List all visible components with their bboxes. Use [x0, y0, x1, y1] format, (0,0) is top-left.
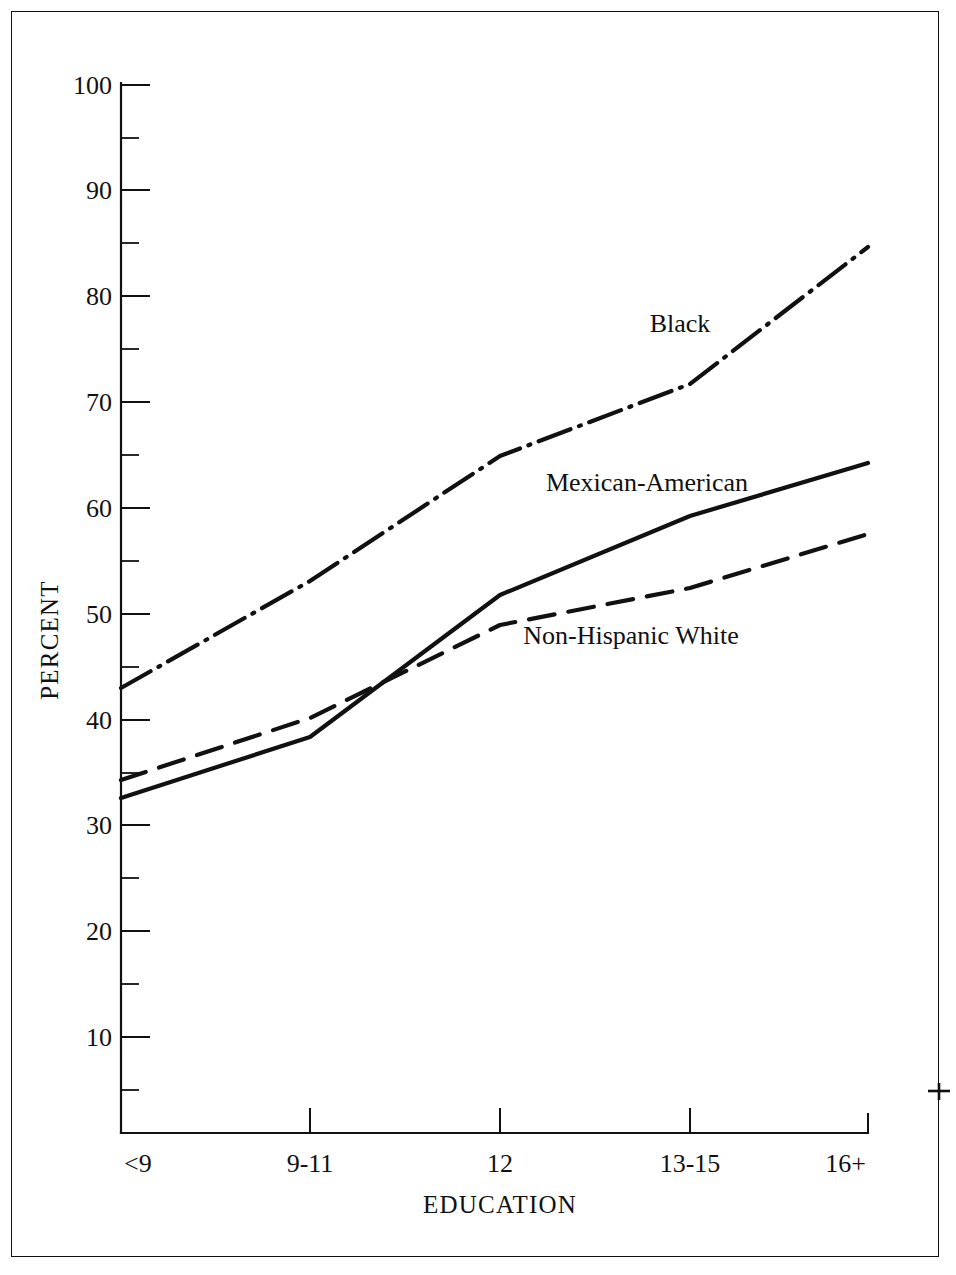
- y-tick-label-20: 20: [86, 917, 112, 946]
- y-tick-label-50: 50: [86, 600, 112, 629]
- chart-figure: 100 90 80 70 60 50 40 30 20 10 PERCENT <…: [0, 0, 956, 1275]
- series-line-non-hispanic-white: [121, 534, 868, 780]
- x-tick-marks: [310, 1108, 690, 1133]
- x-axis: [121, 1113, 868, 1133]
- y-tick-marks: [121, 85, 150, 1090]
- x-tick-label-12: 12: [487, 1149, 513, 1178]
- y-tick-label-100: 100: [73, 71, 112, 100]
- y-tick-label-90: 90: [86, 176, 112, 205]
- x-axis-title: EDUCATION: [423, 1191, 577, 1218]
- y-tick-label-10: 10: [86, 1023, 112, 1052]
- series-label-black: Black: [650, 309, 711, 338]
- x-tick-labels: <9 9-11 12 13-15 16+: [124, 1149, 866, 1178]
- series-label-non-hispanic-white: Non-Hispanic White: [523, 621, 738, 650]
- x-tick-label-9-11: 9-11: [287, 1149, 334, 1178]
- series-line-black: [121, 247, 868, 688]
- chart-canvas: 100 90 80 70 60 50 40 30 20 10 PERCENT <…: [0, 0, 956, 1275]
- x-tick-label-lt9: <9: [124, 1149, 152, 1178]
- series-line-mexican-american: [121, 463, 868, 798]
- x-tick-label-13-15: 13-15: [660, 1149, 721, 1178]
- y-tick-label-40: 40: [86, 706, 112, 735]
- y-tick-labels: 100 90 80 70 60 50 40 30 20 10: [73, 71, 112, 1052]
- y-tick-label-80: 80: [86, 282, 112, 311]
- x-tick-label-16plus: 16+: [825, 1149, 866, 1178]
- y-tick-label-70: 70: [86, 388, 112, 417]
- series-label-mexican-american: Mexican-American: [546, 468, 748, 497]
- y-tick-label-60: 60: [86, 494, 112, 523]
- y-axis-title: PERCENT: [36, 580, 63, 700]
- y-tick-label-30: 30: [86, 811, 112, 840]
